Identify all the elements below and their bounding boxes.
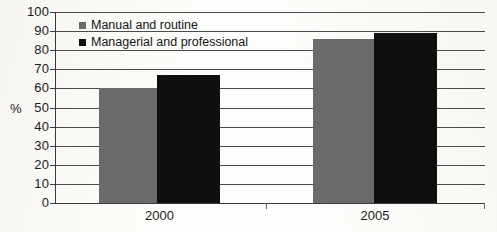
legend-swatch-icon-managerial xyxy=(79,39,86,46)
y-tick-mark-100 xyxy=(50,12,56,13)
y-tick-mark-90 xyxy=(50,31,56,32)
x-tick-mark-0 xyxy=(266,203,267,209)
legend-item-managerial-and-professional: Managerial and professional xyxy=(79,35,248,49)
legend-swatch-icon-manual xyxy=(79,22,86,29)
gridline-100 xyxy=(55,12,485,13)
x-axis-label-2000: 2000 xyxy=(120,208,200,223)
y-tick-label-100: 100 xyxy=(15,4,49,19)
gridline-0 xyxy=(55,203,485,204)
legend-label-manual: Manual and routine xyxy=(91,18,198,32)
y-tick-mark-0 xyxy=(50,203,56,204)
y-tick-label-0: 0 xyxy=(15,195,49,210)
y-tick-mark-50 xyxy=(50,108,56,109)
y-tick-mark-70 xyxy=(50,69,56,70)
y-tick-label-10: 10 xyxy=(15,176,49,191)
y-tick-mark-20 xyxy=(50,165,56,166)
x-axis-label-2005: 2005 xyxy=(335,208,415,223)
y-tick-mark-30 xyxy=(50,146,56,147)
y-tick-mark-80 xyxy=(50,50,56,51)
y-tick-label-40: 40 xyxy=(15,119,49,134)
y-tick-label-70: 70 xyxy=(15,61,49,76)
bar-chart: % 0102030405060708090100 20002005 Manual… xyxy=(0,0,497,232)
legend-label-managerial: Managerial and professional xyxy=(91,35,248,49)
y-tick-mark-60 xyxy=(50,88,56,89)
y-tick-mark-40 xyxy=(50,127,56,128)
y-tick-label-30: 30 xyxy=(15,138,49,153)
y-tick-mark-10 xyxy=(50,184,56,185)
legend-item-manual-and-routine: Manual and routine xyxy=(79,18,248,32)
bar-2005-series1 xyxy=(313,39,374,203)
y-tick-label-80: 80 xyxy=(15,42,49,57)
chart-legend: Manual and routine Managerial and profes… xyxy=(79,18,248,49)
bar-2000-series2 xyxy=(157,75,220,203)
y-tick-label-20: 20 xyxy=(15,157,49,172)
bar-2000-series1 xyxy=(99,88,157,203)
y-tick-label-60: 60 xyxy=(15,80,49,95)
x-tick-mark-1 xyxy=(484,203,485,209)
y-tick-label-90: 90 xyxy=(15,23,49,38)
bar-2005-series2 xyxy=(374,33,437,203)
y-tick-label-50: 50 xyxy=(15,100,49,115)
